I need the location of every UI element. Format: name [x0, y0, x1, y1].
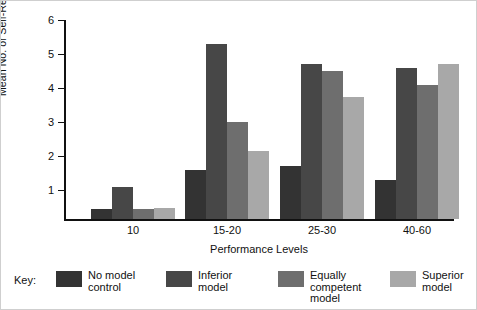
bar[interactable] — [206, 44, 227, 220]
y-tick-mark — [58, 88, 64, 89]
legend-label: No modelcontrol — [88, 270, 135, 293]
y-tick-label: 1 — [48, 185, 54, 196]
y-axis-title: Mean No. of Self-Reinforced Trials — [0, 0, 8, 96]
legend-label-line: model — [310, 293, 361, 305]
bar[interactable] — [154, 208, 175, 219]
bar[interactable] — [227, 122, 248, 219]
y-tick-label: 6 — [48, 15, 54, 26]
legend-item[interactable]: Inferiormodel — [166, 270, 232, 293]
legend-label-line: model — [422, 282, 464, 294]
x-axis-title: Performance Levels — [64, 243, 454, 255]
y-tick-label: 3 — [48, 117, 54, 128]
legend-label-line: control — [88, 282, 135, 294]
legend-swatch — [56, 271, 82, 287]
bar[interactable] — [280, 166, 301, 219]
legend-label-line: model — [198, 282, 232, 294]
legend-item[interactable]: Superiormodel — [390, 270, 464, 293]
legend-swatch — [166, 271, 192, 287]
x-axis-line — [64, 219, 454, 221]
bar[interactable] — [375, 180, 396, 220]
y-axis-line — [64, 20, 66, 221]
bar[interactable] — [248, 151, 269, 219]
bar[interactable] — [322, 71, 343, 219]
legend-label: Superiormodel — [422, 270, 464, 293]
legend-swatch — [390, 271, 416, 287]
bar-group — [185, 20, 269, 219]
plot-area: 123456 — [64, 20, 454, 221]
legend-item[interactable]: No modelcontrol — [56, 270, 135, 293]
bar[interactable] — [133, 209, 154, 220]
x-tick-label: 10 — [91, 224, 175, 236]
legend-label-line: Superior — [422, 270, 464, 282]
bar[interactable] — [438, 64, 459, 219]
x-tick-label: 25-30 — [280, 224, 364, 236]
x-tick-label: 15-20 — [185, 224, 269, 236]
bar-group — [280, 20, 364, 219]
y-tick-label: 2 — [48, 151, 54, 162]
y-tick-label: 5 — [48, 49, 54, 60]
x-tick-label: 40-60 — [375, 224, 459, 236]
legend-label-line: No model — [88, 270, 135, 282]
legend-item[interactable]: Equallycompetentmodel — [278, 270, 361, 305]
bar-group — [91, 20, 175, 219]
y-tick-mark — [58, 54, 64, 55]
bar[interactable] — [396, 68, 417, 220]
bar[interactable] — [91, 209, 112, 220]
legend-label-line: Inferior — [198, 270, 232, 282]
y-tick-mark — [58, 20, 64, 21]
bar[interactable] — [112, 187, 133, 220]
bar[interactable] — [417, 85, 438, 220]
bar-group — [375, 20, 459, 219]
y-tick-label: 4 — [48, 83, 54, 94]
legend: Key: No modelcontrolInferiormodelEqually… — [8, 268, 469, 304]
bar[interactable] — [343, 97, 364, 220]
legend-label-line: Equally — [310, 270, 361, 282]
bar[interactable] — [301, 64, 322, 219]
y-tick-mark — [58, 122, 64, 123]
y-tick-mark — [58, 156, 64, 157]
legend-label: Equallycompetentmodel — [310, 270, 361, 305]
bar-chart: 123456 Mean No. of Self-Reinforced Trial… — [0, 0, 477, 310]
legend-swatch — [278, 271, 304, 287]
bar[interactable] — [185, 170, 206, 220]
y-tick-mark — [58, 190, 64, 191]
legend-title: Key: — [14, 274, 36, 286]
legend-label: Inferiormodel — [198, 270, 232, 293]
